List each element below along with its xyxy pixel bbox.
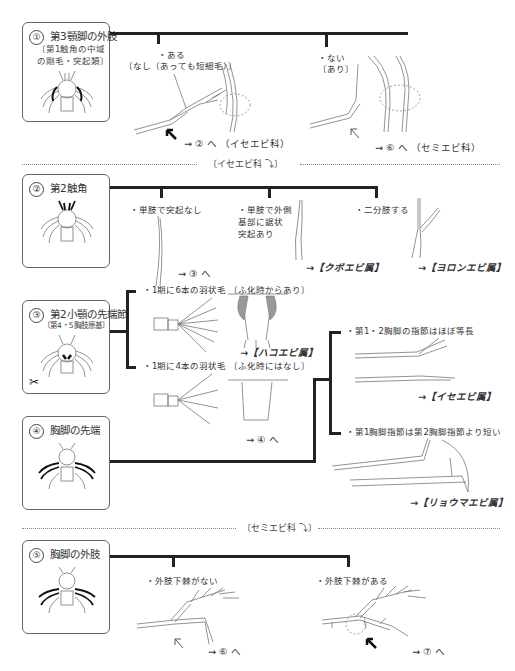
section-5-box: ⑤胸脚の外肢 <box>22 540 110 634</box>
larva-icon <box>37 567 97 617</box>
s3-maxilla-6-setae <box>152 296 222 356</box>
section-3-box: ③第2小顎の先端節 〔第4・5胸肢原基〕 ✂ <box>22 300 110 394</box>
connector-s1-branch-2 <box>325 32 328 47</box>
divider-semi-right <box>318 528 500 529</box>
s2-option-3-result: →【ヨロンエビ属】 <box>418 260 506 274</box>
connector-s3-branch-1 <box>126 290 136 293</box>
divider-semi-label: 〔セミエビ科 ⤵〕 <box>242 521 317 534</box>
s4-option-2-result: →【リョウマエビ属】 <box>410 495 508 509</box>
connector-s1-branch-1 <box>157 32 160 44</box>
s4-option-2-label: ・第1胸脚指節は第2胸脚指節より短い <box>346 426 501 438</box>
larva-icon <box>37 333 97 383</box>
section-5-title: ⑤胸脚の外肢 <box>29 546 100 563</box>
connector-s2-branch-2 <box>268 186 271 198</box>
divider-semi-left <box>22 528 236 529</box>
larva-icon <box>37 199 97 254</box>
connector-s4 <box>110 460 316 463</box>
hollow-arrow-icon <box>172 636 186 650</box>
connector-s4-vertical-a <box>313 378 316 463</box>
connector-s2-branch-1 <box>160 186 163 198</box>
s5-option-1-result: → ⑥ へ <box>208 644 241 658</box>
s4-leg-short-dactyl <box>332 440 482 500</box>
larva-icon <box>37 443 97 493</box>
s3-option-2-result: → ④ へ <box>246 432 279 446</box>
s3-option-2-label: ・1期に4本の羽状毛 〔ふ化時にはなし〕 <box>143 360 310 372</box>
section-3-subtitle: 〔第4・5胸肢原基〕 <box>43 320 109 332</box>
divider-ise-right <box>300 164 500 165</box>
s2-option-2-result: →【クボエビ属】 <box>306 260 384 274</box>
solid-arrow-icon <box>164 127 178 141</box>
connector-s5-branch-2 <box>347 555 350 567</box>
s2-option-2-label-1: ・単肢で外側 <box>238 204 292 216</box>
scissors-icon: ✂ <box>29 375 39 389</box>
section-1-subtitle-2: の剛毛・突起類〕 <box>37 55 109 67</box>
s2-option-2-label-2: 基部に鋸状 <box>238 216 283 228</box>
section-1-box: ①第3顎脚の外肢 〔第1触角の中域 の剛毛・突起類〕 <box>22 22 110 122</box>
s3-option-1-result: →【ハコエビ属】 <box>240 345 318 359</box>
s3-limb-bud-4 <box>228 378 288 428</box>
s3-maxilla-4-setae <box>152 372 222 432</box>
s5-option-2-result: → ⑦ へ <box>412 644 445 658</box>
s2-antenna-2 <box>292 200 312 264</box>
connector-s3-vertical <box>126 290 129 368</box>
s4-option-1-label: ・第1・2胸脚の指節はほぼ等長 <box>346 325 474 337</box>
larva-icon <box>37 69 97 119</box>
s2-option-3-label: ・二分肢する <box>355 204 409 216</box>
connector-s4-vertical-b <box>329 331 332 435</box>
s1-option-2-result: → ⑥ へ （セミエビ科） <box>375 140 481 154</box>
s2-antenna-3 <box>408 198 448 262</box>
s1-appendage-1 <box>130 64 270 144</box>
divider-ise-left <box>22 164 197 165</box>
connector-s3 <box>110 330 126 333</box>
s2-option-2-label-3: 突起あり <box>238 228 274 240</box>
section-2-title: ②第2触角 <box>29 180 87 197</box>
connector-s5-branch-1 <box>172 555 175 567</box>
connector-s2 <box>110 186 378 189</box>
connector-s1 <box>110 32 408 35</box>
hollow-arrow-icon <box>348 126 362 140</box>
s3-limb-bud-6 <box>228 292 288 352</box>
section-4-title: ④胸脚の先端 <box>29 422 100 439</box>
s2-option-1-label: ・単肢で突起なし <box>130 204 202 216</box>
solid-arrow-icon <box>364 636 378 650</box>
s1-option-1-result: → ② へ （イセエビ科） <box>184 136 290 150</box>
s2-antenna-1 <box>148 216 168 286</box>
s4-leg-equal-dactyl <box>355 340 465 390</box>
section-4-box: ④胸脚の先端 <box>22 416 110 510</box>
connector-s5 <box>110 555 350 558</box>
s1-appendage-2 <box>308 64 448 144</box>
section-1-subtitle-1: 〔第1触角の中域 <box>37 43 105 55</box>
s4-option-1-result: →【イセエビ属】 <box>418 389 496 403</box>
s5-option-1-label: ・外肢下棘がない <box>146 575 218 587</box>
connector-s4-branch-2 <box>329 432 341 435</box>
divider-ise-label: 〔イセエビ科 ⤵〕 <box>208 157 283 170</box>
connector-s3-branch-2 <box>126 366 136 369</box>
connector-s2-branch-3 <box>375 186 378 198</box>
s2-option-1-result: → ③ へ <box>178 266 211 280</box>
section-2-box: ②第2触角 <box>22 174 110 268</box>
connector-s4-branch-1 <box>329 331 341 334</box>
